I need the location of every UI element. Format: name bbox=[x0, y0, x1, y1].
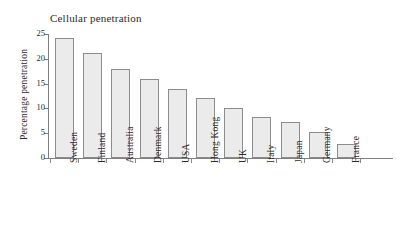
y-axis-label: Percentage penetration bbox=[19, 30, 30, 160]
x-axis-tick-label: Germany bbox=[322, 126, 333, 163]
chart-title: Cellular penetration bbox=[50, 11, 142, 25]
y-axis-tick-label: 20 bbox=[37, 53, 46, 64]
y-axis-tick-label: 25 bbox=[37, 28, 46, 39]
chart-figure: Cellular penetration Percentage penetrat… bbox=[0, 0, 403, 228]
x-axis-tick-label: USA bbox=[181, 143, 192, 163]
x-axis-tick-label: UK bbox=[238, 149, 249, 163]
x-axis-tick-label: Australia bbox=[125, 126, 136, 163]
y-axis-tick-label: 5 bbox=[41, 127, 45, 138]
x-axis-tick-mark bbox=[50, 159, 51, 163]
x-axis-tick-label: Sweden bbox=[69, 132, 80, 163]
x-axis-tick-label: France bbox=[351, 136, 362, 163]
x-axis-tick-label: Denmark bbox=[153, 126, 164, 163]
x-axis-tick-label: Japan bbox=[294, 140, 305, 163]
x-axis-tick-label: Finland bbox=[97, 133, 108, 163]
y-axis-tick-label: 10 bbox=[37, 102, 46, 113]
y-axis-tick-label: 15 bbox=[37, 78, 46, 89]
y-axis-line bbox=[48, 34, 49, 158]
y-axis-tick-label: 0 bbox=[41, 152, 45, 163]
x-axis-tick-label: Hong Kong bbox=[210, 117, 221, 163]
x-axis-tick-label: Italy bbox=[266, 145, 277, 163]
